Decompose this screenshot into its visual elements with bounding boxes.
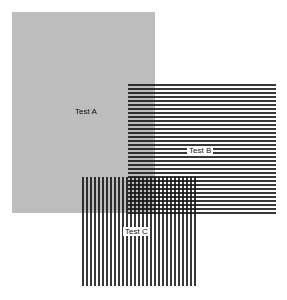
test-c-label: Test C: [123, 227, 150, 236]
test-a-label: Test A: [73, 107, 99, 116]
test-b-label: Test B: [187, 146, 213, 155]
